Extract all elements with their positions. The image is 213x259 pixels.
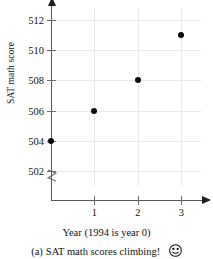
y-axis-title: SAT math score xyxy=(6,18,16,128)
x-axis-arrow-icon xyxy=(202,196,211,204)
gridline-vertical xyxy=(138,8,139,186)
plot-area: 502504506508510512 123 xyxy=(51,8,201,200)
gridline-horizontal xyxy=(51,171,201,172)
caption-letter: (a) xyxy=(31,246,43,257)
x-axis-tick-label: 2 xyxy=(135,207,140,218)
x-axis-title: Year (1994 is year 0) xyxy=(0,227,213,238)
smiley-face-icon xyxy=(169,244,182,259)
x-axis-tick xyxy=(94,196,95,205)
gridline-vertical xyxy=(94,8,95,186)
gridline-horizontal xyxy=(51,80,201,81)
x-axis-line xyxy=(51,200,203,201)
gridline-horizontal xyxy=(51,50,201,51)
figure-caption: (a)SAT math scores climbing! xyxy=(0,244,213,259)
y-axis-tick-label: 502 xyxy=(28,165,44,176)
data-point xyxy=(91,108,97,114)
data-point xyxy=(48,138,54,144)
data-point xyxy=(178,32,184,38)
y-axis-tick xyxy=(47,80,56,81)
x-axis-tick xyxy=(138,196,139,205)
y-axis-tick-label: 510 xyxy=(28,45,44,56)
y-axis-tick xyxy=(47,111,56,112)
x-axis-tick-label: 3 xyxy=(179,207,184,218)
x-axis-tick-label: 1 xyxy=(92,207,97,218)
data-point xyxy=(135,77,141,83)
y-axis-tick xyxy=(47,50,56,51)
gridline-horizontal xyxy=(51,111,201,112)
y-axis-arrow-icon xyxy=(48,0,56,6)
y-axis-tick-label: 508 xyxy=(28,75,44,86)
y-axis-tick-label: 512 xyxy=(28,15,44,26)
gridline-horizontal xyxy=(51,141,201,142)
y-axis-tick-label: 506 xyxy=(28,105,44,116)
gridline-horizontal xyxy=(51,20,201,21)
caption-text: SAT math scores climbing! xyxy=(46,246,160,257)
x-axis-tick xyxy=(181,196,182,205)
axis-break-icon xyxy=(46,168,58,184)
y-axis-tick-label: 504 xyxy=(28,135,44,146)
y-axis-tick xyxy=(47,20,56,21)
